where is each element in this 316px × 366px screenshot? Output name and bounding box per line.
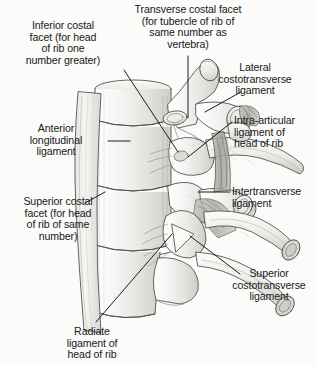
vertebra-lower-cut xyxy=(153,258,198,306)
label-transverse-costal-facet: Transverse costal facet (for tubercle of… xyxy=(122,4,254,50)
label-superior-costal-facet: Superior costal facet (for head of rib o… xyxy=(0,196,116,242)
anatomical-figure: Inferior costal facet (for head of rib o… xyxy=(0,0,316,366)
label-lateral-costotransverse-ligament: Lateral costotransverse ligament xyxy=(196,62,314,97)
label-intra-articular-ligament: Intra-articular ligament of head of rib xyxy=(234,115,316,150)
label-radiate-ligament: Radiate ligament of head of rib xyxy=(50,326,134,361)
label-superior-costotransverse-ligament: Superior costotransverse ligament xyxy=(222,268,316,303)
label-intertransverse-ligament: Intertransverse ligament xyxy=(232,186,316,209)
label-inferior-costal-facet: Inferior costal facet (for head of rib o… xyxy=(2,20,124,66)
label-anterior-longitudinal-ligament: Anterior longitudinal ligament xyxy=(4,123,108,158)
